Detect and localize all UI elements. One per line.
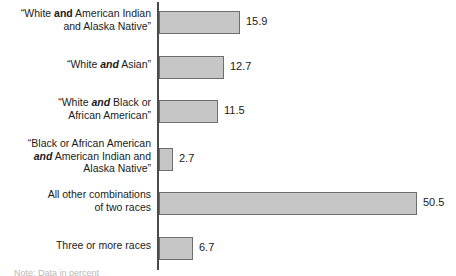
bar-category-label: Three or more races xyxy=(0,239,151,252)
bar-category-label: “Black or African Americanand American I… xyxy=(0,137,151,175)
bar-category-label: “White and Asian” xyxy=(0,58,151,71)
bar-value-label: 2.7 xyxy=(179,152,194,165)
bar xyxy=(159,148,173,171)
bar-category-label: All other combinationsof two races xyxy=(0,188,151,213)
bar-row: “White and Black orAfrican American”11.5 xyxy=(0,100,456,123)
bar-value-label: 12.7 xyxy=(230,60,251,73)
bar-chart: “White and American Indianand Alaska Nat… xyxy=(0,0,456,276)
bar-value-label: 6.7 xyxy=(199,241,214,254)
bar-value-label: 15.9 xyxy=(246,15,267,28)
bar-category-label: “White and American Indianand Alaska Nat… xyxy=(0,7,151,32)
bar-value-label: 11.5 xyxy=(224,104,245,117)
bar-row: “Black or African Americanand American I… xyxy=(0,148,456,171)
bar-category-label: “White and Black orAfrican American” xyxy=(0,96,151,121)
bar xyxy=(159,100,218,123)
bar-row: “White and Asian”12.7 xyxy=(0,56,456,79)
bar-row: “White and American Indianand Alaska Nat… xyxy=(0,11,456,34)
bar-row: Three or more races6.7 xyxy=(0,237,456,260)
chart-caption-cutoff: Note: Data in percent xyxy=(14,268,344,276)
bar xyxy=(159,192,417,215)
category-axis-line xyxy=(157,2,159,270)
bar xyxy=(159,11,240,34)
bar-value-label: 50.5 xyxy=(423,196,444,209)
bar xyxy=(159,237,193,260)
bar xyxy=(159,56,224,79)
bar-row: All other combinationsof two races50.5 xyxy=(0,192,456,215)
